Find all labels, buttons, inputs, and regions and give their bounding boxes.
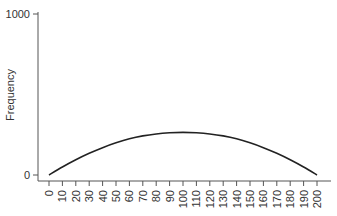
x-tick-label: 200: [311, 190, 323, 208]
x-tick-label: 120: [204, 190, 216, 208]
x-tick-label: 130: [217, 190, 229, 208]
x-tick-label: 90: [164, 190, 176, 202]
y-axis-title: Frequency: [4, 69, 16, 121]
data-line: [49, 132, 317, 175]
x-tick-label: 60: [123, 190, 135, 202]
chart: 0100001020304050607080901001101201301401…: [0, 0, 337, 216]
x-tick-label: 0: [43, 190, 55, 196]
y-tick-label: 0: [24, 169, 30, 181]
x-tick-label: 20: [70, 190, 82, 202]
x-tick-label: 150: [244, 190, 256, 208]
x-tick-label: 190: [298, 190, 310, 208]
x-tick-label: 140: [231, 190, 243, 208]
x-tick-label: 30: [83, 190, 95, 202]
y-tick-label: 1000: [6, 8, 30, 20]
x-tick-label: 80: [150, 190, 162, 202]
x-tick-label: 40: [97, 190, 109, 202]
axes: 0100001020304050607080901001101201301401…: [6, 8, 331, 208]
x-tick-label: 170: [271, 190, 283, 208]
x-tick-label: 10: [56, 190, 68, 202]
x-tick-label: 160: [257, 190, 269, 208]
x-tick-label: 100: [177, 190, 189, 208]
x-tick-label: 50: [110, 190, 122, 202]
x-tick-label: 180: [284, 190, 296, 208]
x-tick-label: 110: [190, 190, 202, 208]
x-tick-label: 70: [137, 190, 149, 202]
